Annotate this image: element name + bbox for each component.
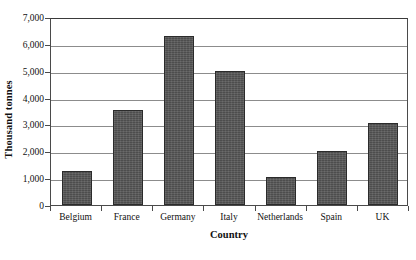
y-axis-tick-label: 4,000	[4, 94, 44, 104]
y-axis-tick-label: 3,000	[4, 120, 44, 130]
y-axis-tick-label: 2,000	[4, 147, 44, 157]
bar-france[interactable]	[113, 110, 143, 205]
bar-slot	[307, 19, 358, 205]
x-axis-title: Country	[50, 229, 408, 240]
bar-slot	[153, 19, 204, 205]
x-axis-tick-mark	[357, 206, 358, 211]
x-axis-label-netherlands: Netherlands	[257, 212, 303, 222]
x-axis-tick-mark	[50, 206, 51, 211]
bar-italy[interactable]	[215, 71, 245, 205]
bar-slot	[256, 19, 307, 205]
plot-area	[50, 18, 408, 206]
y-axis-tick-label: 5,000	[4, 67, 44, 77]
y-axis-tick-label: 1,000	[4, 174, 44, 184]
x-axis-tick-mark	[152, 206, 153, 211]
bar-spain[interactable]	[317, 151, 347, 205]
x-axis-label-italy: Italy	[220, 212, 237, 222]
bar-chart-figure: Thousand tonnes 01,0002,0003,0004,0005,0…	[0, 0, 416, 260]
x-axis-tick-mark	[408, 206, 409, 211]
bar-slot	[358, 19, 409, 205]
bar-slot	[51, 19, 102, 205]
y-axis-tick-label: 6,000	[4, 40, 44, 50]
x-axis-label-uk: UK	[376, 212, 390, 222]
x-axis-label-spain: Spain	[320, 212, 342, 222]
bars-layer	[51, 19, 407, 205]
bar-belgium[interactable]	[62, 171, 92, 205]
bar-uk[interactable]	[368, 123, 398, 205]
x-axis-tick-mark	[101, 206, 102, 211]
bar-slot	[102, 19, 153, 205]
x-axis-tick-mark	[255, 206, 256, 211]
x-axis-label-france: France	[114, 212, 140, 222]
bar-slot	[204, 19, 255, 205]
bar-netherlands[interactable]	[266, 177, 296, 205]
x-axis-tick-mark	[203, 206, 204, 211]
x-axis-label-germany: Germany	[160, 212, 195, 222]
x-axis-tick-mark	[306, 206, 307, 211]
y-axis-tick-label: 7,000	[4, 13, 44, 23]
x-axis-label-belgium: Belgium	[59, 212, 92, 222]
y-axis-tick-label: 0	[4, 201, 44, 211]
bar-germany[interactable]	[164, 36, 194, 205]
